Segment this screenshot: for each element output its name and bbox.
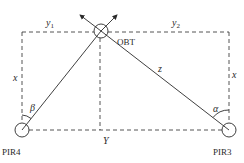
label-z: z (157, 63, 162, 74)
label-alpha: α (213, 103, 219, 114)
label-y-bottom: Y (103, 135, 110, 146)
label-obt: OBT (117, 37, 136, 47)
label-y2: y2 (171, 17, 180, 30)
label-x-left: x (12, 72, 18, 83)
line-obt-to-pir4 (22, 31, 101, 130)
label-pir4: PIR4 (2, 147, 21, 157)
label-y1: y1 (45, 17, 54, 30)
label-beta: β (29, 102, 35, 113)
arrow-up-left-icon (80, 15, 101, 31)
label-pir3: PIR3 (213, 147, 232, 157)
beta-angle-arc (22, 115, 31, 119)
geometry-diagram: y1 y2 OBT x x z β α Y PIR4 PIR3 (0, 0, 244, 163)
arrow-up-right-icon (101, 15, 117, 31)
label-x-right: x (231, 69, 237, 80)
